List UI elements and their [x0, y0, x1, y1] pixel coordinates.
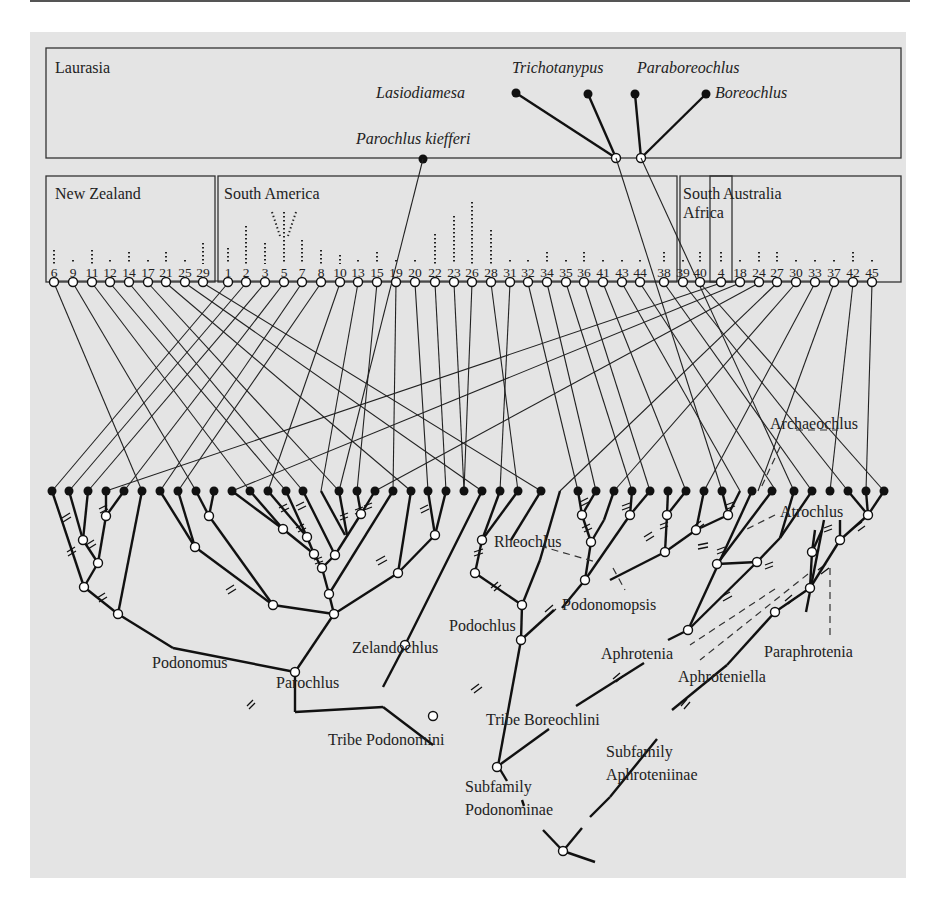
clade-label-subfamily-podonominae-1: Subfamily — [465, 778, 532, 796]
clade-label-archaeochlus: Archaeochlus — [770, 415, 858, 432]
area-to-taxon-connectors — [52, 158, 884, 491]
clade-label-tribe-podonomini: Tribe Podonomini — [328, 731, 445, 748]
region-label-laurasia: Laurasia — [55, 59, 110, 76]
taxon-boreochlus: Boreochlus — [715, 84, 787, 101]
region-label-australia: Australia — [723, 185, 782, 202]
taxon-trichotanypus: Trichotanypus — [512, 59, 604, 77]
clade-label-subfamily-aphroteniinae-2: Aphroteniinae — [606, 766, 698, 784]
species-count-dots — [54, 202, 872, 264]
taxon-paraboreochlus: Paraboreochlus — [636, 59, 740, 76]
taxon-parochlus-kiefferi: Parochlus kiefferi — [355, 130, 471, 148]
taxon-lasiodiamesa: Lasiodiamesa — [375, 84, 465, 101]
clade-label-aphrotenia: Aphrotenia — [601, 645, 673, 663]
clade-label-atrochlus: Atrochlus — [780, 503, 843, 520]
terminal-taxa — [48, 487, 889, 496]
clade-label-rheochlus: Rheochlus — [494, 533, 562, 550]
region-label-south-america: South America — [224, 185, 320, 202]
area-cladogram: Laurasia New Zealand South America South… — [0, 0, 928, 897]
clade-labels: Archaeochlus Atrochlus Rheochlus Podonom… — [152, 415, 858, 818]
clade-label-podonomopsis: Podonomopsis — [562, 596, 656, 614]
clade-label-subfamily-podonominae-2: Podonominae — [465, 801, 553, 818]
clade-label-subfamily-aphroteniinae-1: Subfamily — [606, 743, 673, 761]
clade-label-aphroteniella: Aphroteniella — [678, 668, 766, 686]
clade-label-paraphrotenia: Paraphrotenia — [764, 643, 853, 661]
region-label-south-africa-1: South — [683, 185, 720, 202]
region-label-new-zealand: New Zealand — [55, 185, 141, 202]
clade-label-tribe-boreochlini: Tribe Boreochlini — [486, 711, 600, 728]
clade-label-parochlus: Parochlus — [276, 674, 339, 691]
clade-label-podochlus: Podochlus — [449, 617, 516, 634]
clade-label-zelandochlus: Zelandochlus — [352, 639, 438, 656]
region-box-laurasia — [46, 48, 901, 158]
clade-label-podonomus: Podonomus — [152, 654, 228, 671]
region-label-south-africa-2: Africa — [683, 204, 724, 221]
